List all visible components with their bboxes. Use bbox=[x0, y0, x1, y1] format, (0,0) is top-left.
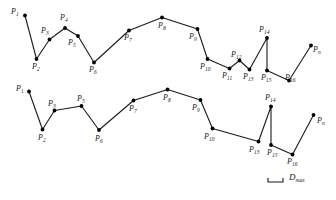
simplified-label-P15: P15 bbox=[267, 149, 277, 157]
original-label-P4: P4 bbox=[60, 14, 68, 22]
simplified-vertex-P13 bbox=[257, 140, 261, 144]
original-label-P3: P3 bbox=[41, 27, 49, 35]
original-label-P13: P13 bbox=[243, 73, 253, 81]
original-label-P2: P2 bbox=[32, 63, 40, 71]
simplified-vertex-P16 bbox=[291, 153, 295, 157]
original-label-P5: P5 bbox=[68, 39, 76, 47]
original-vertex-P5 bbox=[76, 34, 80, 38]
simplified-vertex-P7 bbox=[132, 99, 136, 103]
simplified-label-P14: P14 bbox=[265, 94, 275, 102]
simplified-vertex-P2 bbox=[41, 128, 45, 132]
simplified-vertex-Pn bbox=[312, 113, 316, 117]
simplified-label-P2: P2 bbox=[38, 134, 46, 142]
original-label-P6: P6 bbox=[89, 66, 97, 74]
original-vertex-P7 bbox=[127, 29, 131, 33]
original-label-P11: P11 bbox=[222, 72, 232, 80]
original-vertex-P2 bbox=[35, 57, 39, 61]
polyline-simplification-figure: P1P2P3P4P5P6P7P8P9P10P11P12P13P14P15P16P… bbox=[0, 0, 336, 200]
original-label-P16: P16 bbox=[285, 74, 295, 82]
original-vertex-P8 bbox=[160, 16, 164, 20]
simplified-vertex-P15 bbox=[269, 143, 273, 147]
simplified-label-P8: P8 bbox=[163, 94, 171, 102]
original-polyline-group bbox=[23, 14, 313, 83]
simplified-label-P6: P6 bbox=[95, 135, 103, 143]
simplified-label-P13: P13 bbox=[249, 146, 259, 154]
original-vertex-P6 bbox=[92, 61, 96, 65]
original-vertex-P9 bbox=[196, 27, 200, 31]
simplified-vertex-P6 bbox=[97, 128, 101, 132]
original-label-P14: P14 bbox=[259, 26, 269, 34]
original-vertex-P3 bbox=[48, 38, 52, 42]
tolerance-bracket-icon bbox=[268, 178, 283, 182]
simplified-label-P5: P5 bbox=[77, 95, 85, 103]
simplified-vertex-P3 bbox=[53, 109, 57, 113]
original-label-P10: P10 bbox=[200, 63, 210, 71]
simplified-vertex-P14 bbox=[269, 105, 273, 109]
original-vertex-P4 bbox=[63, 26, 67, 30]
tolerance-label: Dmax bbox=[289, 173, 305, 182]
original-label-Pn: Pn bbox=[313, 46, 321, 54]
original-vertex-P13 bbox=[248, 68, 252, 72]
simplified-label-P10: P10 bbox=[204, 133, 214, 141]
original-vertex-P15 bbox=[265, 69, 269, 73]
original-label-P12: P12 bbox=[231, 51, 241, 59]
simplified-vertex-P1 bbox=[27, 90, 31, 94]
simplified-vertex-P9 bbox=[199, 98, 203, 102]
simplified-vertex-P5 bbox=[80, 104, 84, 108]
simplified-label-P16: P16 bbox=[287, 158, 297, 166]
original-vertex-P10 bbox=[206, 57, 210, 61]
simplified-label-Pn: Pn bbox=[317, 117, 325, 125]
original-label-P1: P1 bbox=[11, 8, 19, 16]
original-label-P9: P9 bbox=[189, 33, 197, 41]
original-vertex-P11 bbox=[228, 67, 232, 71]
simplified-label-P1: P1 bbox=[16, 85, 24, 93]
tolerance-scale-bar bbox=[268, 178, 283, 182]
simplified-vertex-P10 bbox=[211, 127, 215, 131]
simplified-label-P3: P3 bbox=[48, 100, 56, 108]
simplified-vertex-P8 bbox=[166, 88, 170, 92]
original-vertex-P14 bbox=[265, 36, 269, 40]
original-label-P8: P8 bbox=[158, 22, 166, 30]
original-vertex-P1 bbox=[23, 14, 27, 18]
simplified-label-P7: P7 bbox=[129, 105, 137, 113]
simplified-label-P9: P9 bbox=[192, 104, 200, 112]
original-label-P7: P7 bbox=[124, 34, 132, 42]
original-label-P15: P15 bbox=[261, 74, 271, 82]
